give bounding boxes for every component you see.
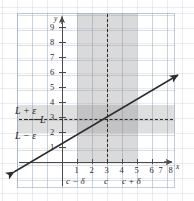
- x-tick-label-5: 5: [135, 166, 139, 175]
- y-tick-label-6: 6: [50, 68, 54, 77]
- y-tick-label-2: 2: [50, 128, 54, 137]
- label-L: L: [40, 115, 46, 125]
- x-tick-2: [92, 159, 93, 164]
- y-tick-8: [59, 42, 66, 43]
- x-tick-6: [152, 159, 153, 164]
- x-tick-label-8: 8: [169, 166, 173, 175]
- y-tick-label-7: 7: [50, 53, 54, 62]
- x-tick-label-7: 7: [159, 166, 163, 175]
- label-c-plus-delta: c + δ: [122, 177, 141, 186]
- y-tick-6: [59, 72, 66, 73]
- x-tick-label-3: 3: [105, 166, 109, 175]
- y-tick-label-1: 1: [50, 143, 54, 152]
- x-tick-label-2: 2: [90, 166, 94, 175]
- y-tick-2: [59, 132, 66, 133]
- label-L-minus-epsilon: L − ε: [15, 131, 36, 141]
- y-tick-7: [59, 57, 66, 58]
- L-label-leader: [25, 119, 39, 120]
- x-tick-label-4: 4: [120, 166, 124, 175]
- x-tick-label-1: 1: [75, 166, 79, 175]
- y-tick-9: [59, 27, 66, 28]
- x-tick-label-6: 6: [150, 166, 154, 175]
- x-axis: [19, 162, 171, 163]
- c-dashed-line: [107, 14, 108, 162]
- y-tick-3: [59, 117, 66, 118]
- y-tick-5: [59, 87, 66, 88]
- y-tick-4: [59, 102, 66, 103]
- limit-definition-figure: 9 8 7 6 5 4 3 2 1 y 1 2 3 4 5 6 7 8 x L …: [0, 0, 194, 201]
- y-tick-label-3: 3: [50, 113, 54, 122]
- y-tick-label-5: 5: [50, 83, 54, 92]
- y-tick-label-9: 9: [50, 23, 54, 32]
- y-tick-label-8: 8: [50, 38, 54, 47]
- x-tick-5: [137, 159, 138, 164]
- label-c: c: [104, 177, 108, 186]
- x-tick-4: [122, 159, 123, 164]
- label-L-plus-epsilon: L + ε: [15, 106, 36, 116]
- x-axis-label: x: [176, 163, 179, 171]
- y-tick-1: [59, 147, 66, 148]
- label-c-minus-delta: c − δ: [66, 177, 85, 186]
- x-tick-1: [77, 159, 78, 164]
- y-tick-label-4: 4: [50, 98, 54, 107]
- y-axis-label: y: [54, 15, 57, 23]
